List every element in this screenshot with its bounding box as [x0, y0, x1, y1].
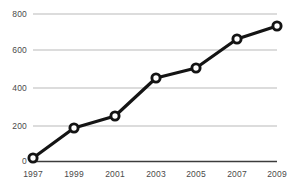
x-tick-label-2009: 2009 [257, 170, 297, 179]
y-tick-label-800: 800 [3, 10, 27, 19]
y-tick-label-200: 200 [3, 122, 27, 131]
y-tick-label-0: 0 [3, 157, 27, 166]
y-tick-label-400: 400 [3, 84, 27, 93]
data-point-2003 [152, 74, 160, 82]
data-point-1999 [70, 124, 78, 132]
y-tick-label-600: 600 [3, 46, 27, 55]
data-point-markers [29, 22, 281, 162]
line-chart: 800 600 400 200 0 1997 1999 2001 2003 20… [0, 0, 299, 191]
x-tick-label-2003: 2003 [136, 170, 176, 179]
plot-area [0, 0, 299, 191]
data-point-2001 [111, 112, 119, 120]
data-point-2007 [233, 35, 241, 43]
x-tick-label-2005: 2005 [176, 170, 216, 179]
data-point-1997 [29, 154, 37, 162]
series-1-path [33, 26, 277, 158]
data-series-line [33, 26, 277, 158]
gridlines [33, 14, 277, 126]
x-tick-label-2007: 2007 [217, 170, 257, 179]
x-tick-label-2001: 2001 [95, 170, 135, 179]
data-point-2009 [273, 22, 281, 30]
x-tick-label-1999: 1999 [54, 170, 94, 179]
x-tick-label-1997: 1997 [13, 170, 53, 179]
data-point-2005 [192, 64, 200, 72]
